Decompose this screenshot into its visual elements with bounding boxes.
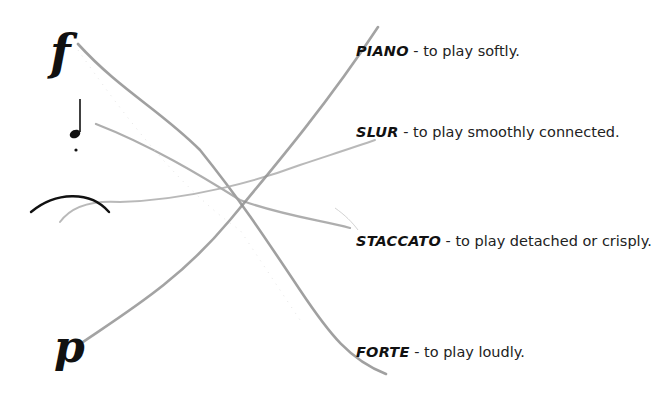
term-meaning: to play loudly. — [424, 344, 525, 360]
quarter-note-staccato-icon — [68, 99, 81, 152]
music-terms-matching-worksheet: f p PIANO - to play softly. SLUR - to pl… — [0, 0, 669, 394]
term-label: FORTE — [356, 344, 410, 360]
definition-slur: SLUR - to play smoothly connected. — [356, 125, 620, 140]
term-meaning: to play detached or crisply. — [455, 233, 651, 249]
term-label: STACCATO — [356, 233, 441, 249]
term-separator: - — [441, 233, 455, 249]
matching-lines — [0, 0, 669, 394]
piano-dynamic-icon: p — [54, 325, 85, 369]
term-label: PIANO — [356, 43, 409, 59]
term-separator: - — [399, 124, 413, 140]
match-line-staccato — [96, 124, 350, 228]
term-meaning: to play smoothly connected. — [413, 124, 620, 140]
term-meaning: to play softly. — [423, 43, 520, 59]
term-label: SLUR — [356, 124, 399, 140]
forte-dynamic-icon: f — [50, 28, 71, 76]
term-separator: - — [409, 43, 423, 59]
slur-arc-icon — [31, 196, 109, 212]
match-line-forte — [78, 44, 386, 374]
term-separator: - — [410, 344, 424, 360]
definition-staccato: STACCATO - to play detached or crisply. — [356, 234, 652, 249]
definition-piano: PIANO - to play softly. — [356, 44, 520, 59]
definition-forte: FORTE - to play loudly. — [356, 345, 525, 360]
